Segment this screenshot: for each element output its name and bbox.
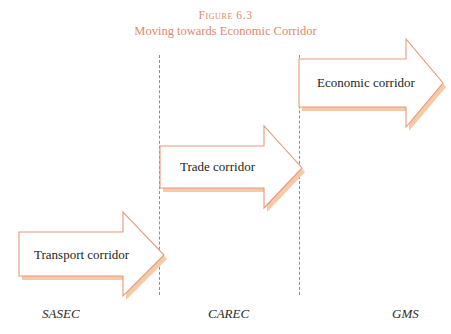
arrow-economic-corridor: Economic corridor (299, 37, 449, 133)
axis-label-gms: GMS (392, 306, 419, 322)
arrow-label-transport-corridor: Transport corridor (34, 247, 129, 263)
figure-number: Figure 6.3 (0, 8, 451, 22)
figure-canvas: Figure 6.3 Moving towards Economic Corri… (0, 0, 451, 334)
axis-label-carec: CAREC (208, 306, 249, 322)
arrow-label-economic-corridor: Economic corridor (317, 75, 415, 91)
arrow-trade-corridor: Trade corridor (160, 124, 308, 214)
figure-title-block: Figure 6.3 Moving towards Economic Corri… (0, 8, 451, 39)
axis-label-sasec: SASEC (42, 306, 80, 322)
arrow-transport-corridor: Transport corridor (18, 210, 170, 302)
arrow-label-trade-corridor: Trade corridor (180, 159, 255, 175)
